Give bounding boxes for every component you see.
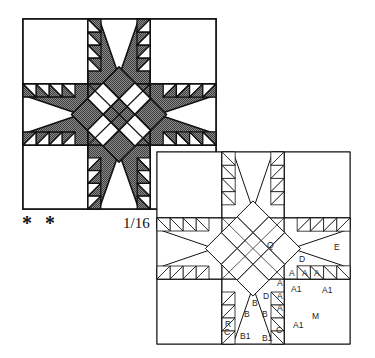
piece-label: A1 xyxy=(293,320,304,330)
piece-label: A xyxy=(277,278,283,288)
scale-label: 1/16 xyxy=(123,214,150,232)
corner-square xyxy=(284,152,350,218)
corner-square xyxy=(157,279,222,344)
piece-label: D xyxy=(299,254,305,264)
piece-label: Q xyxy=(267,240,274,250)
corner-square xyxy=(157,152,222,218)
piece-label: B xyxy=(262,309,268,319)
piece-label: D xyxy=(263,291,269,301)
piece-label: A1 xyxy=(322,285,333,295)
piece-label: E xyxy=(334,242,340,252)
corner-square xyxy=(23,145,88,209)
corner-square xyxy=(23,19,88,84)
piece-label: A xyxy=(277,303,283,313)
quilt-diagrams: QEDAAAA1A1DAAABBBMA1RCCB1B1 xyxy=(0,0,375,358)
piece-label: A xyxy=(277,291,283,301)
difficulty-rating: * * xyxy=(22,213,59,233)
piece-label: A xyxy=(302,268,308,278)
piece-label: A xyxy=(314,268,320,278)
piece-label: M xyxy=(312,311,319,321)
piece-label: B1 xyxy=(240,331,251,341)
piece-label: B xyxy=(252,298,258,308)
piece-label: A1 xyxy=(291,284,302,294)
piece-label: B1 xyxy=(262,333,273,343)
piece-label: C xyxy=(224,327,230,337)
piece-label: A xyxy=(289,268,295,278)
piece-diagram-block xyxy=(157,152,350,344)
corner-square xyxy=(150,19,216,84)
quilt-pattern-page: QEDAAAA1A1DAAABBBMA1RCCB1B1 * * 1/16 xyxy=(0,0,375,358)
piece-label: C xyxy=(276,325,282,335)
piece-label: B xyxy=(244,309,250,319)
